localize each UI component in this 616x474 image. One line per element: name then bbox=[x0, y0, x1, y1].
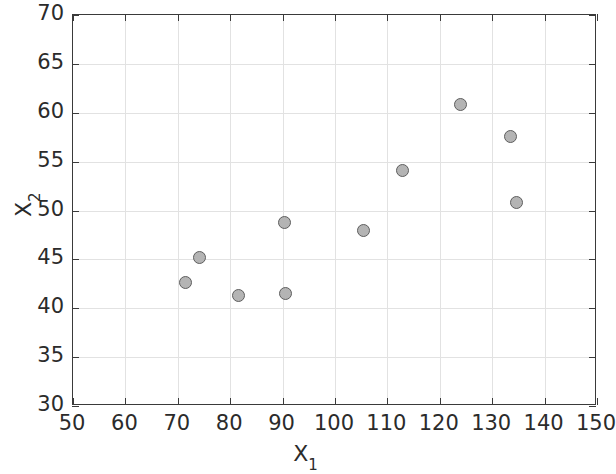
y-tick-mark-right bbox=[589, 113, 596, 114]
gridline-vertical bbox=[492, 15, 493, 404]
x-tick-label: 130 bbox=[471, 411, 511, 435]
x-tick-mark bbox=[545, 398, 546, 405]
x-tick-label: 60 bbox=[111, 411, 138, 435]
data-point-marker bbox=[504, 130, 517, 143]
y-tick-mark bbox=[72, 113, 79, 114]
gridline-horizontal bbox=[73, 211, 595, 212]
x-tick-mark bbox=[230, 398, 231, 405]
data-point-marker bbox=[193, 251, 206, 264]
x-tick-mark-top bbox=[283, 14, 284, 21]
gridline-horizontal bbox=[73, 113, 595, 114]
y-tick-mark bbox=[72, 259, 79, 260]
gridline-vertical bbox=[283, 15, 284, 404]
gridline-vertical bbox=[440, 15, 441, 404]
x-tick-mark bbox=[440, 398, 441, 405]
x-tick-label: 120 bbox=[419, 411, 459, 435]
y-tick-mark bbox=[72, 406, 79, 407]
gridline-vertical bbox=[178, 15, 179, 404]
x-tick-label: 110 bbox=[366, 411, 406, 435]
gridline-horizontal bbox=[73, 259, 595, 260]
data-point-marker bbox=[232, 289, 245, 302]
axis-title-subscript: 2 bbox=[27, 192, 45, 202]
axis-title-base: X bbox=[11, 202, 36, 217]
y-tick-mark bbox=[72, 162, 79, 163]
axis-title-subscript: 1 bbox=[308, 456, 318, 474]
x-tick-label: 100 bbox=[314, 411, 354, 435]
x-tick-mark bbox=[125, 398, 126, 405]
gridline-vertical bbox=[335, 15, 336, 404]
gridline-horizontal bbox=[73, 308, 595, 309]
y-tick-mark bbox=[72, 15, 79, 16]
y-tick-mark-right bbox=[589, 15, 596, 16]
x-tick-label: 90 bbox=[268, 411, 295, 435]
data-point-marker bbox=[454, 98, 467, 111]
x-tick-mark-top bbox=[335, 14, 336, 21]
gridline-horizontal bbox=[73, 162, 595, 163]
gridline-horizontal bbox=[73, 357, 595, 358]
y-tick-mark bbox=[72, 211, 79, 212]
x-tick-mark bbox=[387, 398, 388, 405]
gridline-vertical bbox=[230, 15, 231, 404]
y-tick-mark-right bbox=[589, 357, 596, 358]
data-point-marker bbox=[510, 196, 523, 209]
y-tick-mark-right bbox=[589, 211, 596, 212]
x-tick-label: 140 bbox=[524, 411, 564, 435]
x-tick-mark bbox=[492, 398, 493, 405]
plot-area bbox=[72, 14, 596, 405]
axis-title-base: X bbox=[293, 441, 308, 466]
x-tick-label: 70 bbox=[163, 411, 190, 435]
x-tick-mark bbox=[597, 398, 598, 405]
x-axis-title: X1 bbox=[0, 441, 611, 470]
x-tick-mark bbox=[335, 398, 336, 405]
x-tick-mark-top bbox=[178, 14, 179, 21]
data-point-marker bbox=[357, 224, 370, 237]
gridline-horizontal bbox=[73, 64, 595, 65]
gridline-vertical bbox=[545, 15, 546, 404]
x-tick-mark bbox=[73, 398, 74, 405]
y-tick-mark bbox=[72, 308, 79, 309]
x-tick-mark-top bbox=[230, 14, 231, 21]
y-tick-mark-right bbox=[589, 162, 596, 163]
x-tick-mark-top bbox=[545, 14, 546, 21]
data-point-marker bbox=[279, 287, 292, 300]
y-tick-mark-right bbox=[589, 64, 596, 65]
y-axis-title: X2 bbox=[11, 175, 40, 235]
data-point-marker bbox=[278, 216, 291, 229]
y-tick-mark-right bbox=[589, 259, 596, 260]
data-point-marker bbox=[396, 164, 409, 177]
x-tick-mark bbox=[178, 398, 179, 405]
gridline-vertical bbox=[125, 15, 126, 404]
gridline-vertical bbox=[387, 15, 388, 404]
x-tick-mark-top bbox=[597, 14, 598, 21]
x-tick-mark-top bbox=[440, 14, 441, 21]
data-point-marker bbox=[179, 276, 192, 289]
x-tick-mark bbox=[283, 398, 284, 405]
x-tick-mark-top bbox=[387, 14, 388, 21]
x-tick-mark-top bbox=[492, 14, 493, 21]
y-tick-mark-right bbox=[589, 406, 596, 407]
y-tick-mark-right bbox=[589, 308, 596, 309]
y-tick-mark bbox=[72, 357, 79, 358]
x-tick-mark-top bbox=[125, 14, 126, 21]
x-tick-label: 80 bbox=[216, 411, 243, 435]
y-tick-mark bbox=[72, 64, 79, 65]
x-tick-label: 150 bbox=[576, 411, 616, 435]
